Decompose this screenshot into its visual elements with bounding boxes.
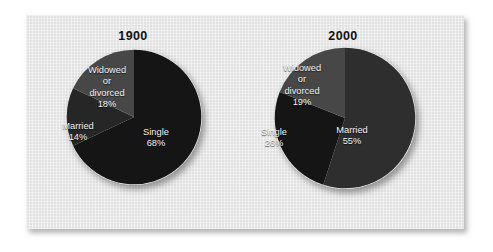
pie-svg-1900 — [66, 49, 202, 185]
chart-title-1900: 1900 — [38, 29, 228, 43]
pie-slices-1900 — [67, 50, 202, 185]
chart-title-2000: 2000 — [234, 29, 452, 43]
pie-graphic-1900 — [66, 49, 202, 185]
chart-panel: 1900 Widowed or divorced 18% Married — [26, 15, 464, 229]
pie-slices-2000 — [275, 48, 416, 189]
figure-root: 1900 Widowed or divorced 18% Married — [0, 0, 493, 252]
pie-chart-1900: 1900 Widowed or divorced 18% Married — [38, 15, 228, 229]
pie-graphic-2000 — [274, 47, 416, 189]
pie-chart-2000: 2000 Widowed or divorced 19% Single — [234, 15, 452, 229]
pie-svg-2000 — [274, 47, 416, 189]
